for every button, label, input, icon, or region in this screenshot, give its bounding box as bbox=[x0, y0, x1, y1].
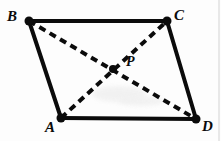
edge-cd bbox=[167, 21, 196, 119]
edge-ad bbox=[61, 118, 196, 119]
geometry-figure: B C A D P bbox=[0, 0, 221, 141]
parallelogram-drawing bbox=[0, 0, 221, 141]
vertex-label-p: P bbox=[126, 55, 135, 69]
vertex-dot-b bbox=[25, 17, 34, 26]
vertex-dot-a bbox=[57, 114, 66, 123]
vertex-dot-p bbox=[109, 65, 117, 73]
vertex-dot-d bbox=[192, 115, 201, 124]
vertex-label-c: C bbox=[174, 8, 184, 23]
vertex-label-b: B bbox=[7, 9, 17, 24]
vertex-label-a: A bbox=[45, 120, 55, 135]
vertex-dot-c bbox=[163, 17, 172, 26]
vertex-label-d: D bbox=[202, 119, 213, 134]
